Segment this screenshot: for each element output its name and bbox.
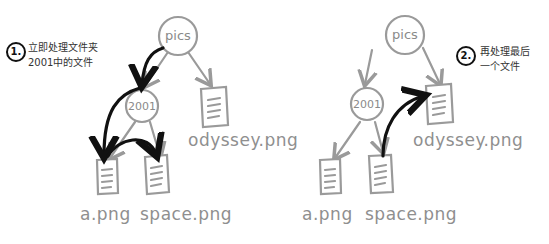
step-2-caption: 再处理最后 一个文件 (480, 44, 530, 74)
file-odyssey-icon (201, 87, 228, 127)
node-pics-label: pics (392, 27, 418, 42)
file-a-label: a.png (302, 204, 353, 224)
step-2-caption-line1: 再处理最后 (480, 44, 530, 59)
step-1-caption-line1: 立即处理文件夹 (28, 40, 98, 55)
step-2-caption-line2: 一个文件 (480, 59, 530, 74)
edge-pics-2001 (365, 50, 372, 84)
node-2001-label: 2001 (128, 100, 156, 113)
file-space-label: space.png (365, 204, 457, 224)
step-1-caption-line2: 2001中的文件 (28, 55, 98, 70)
file-space-label: space.png (140, 204, 232, 224)
node-pics: pics (159, 17, 197, 55)
file-odyssey-icon (426, 84, 453, 124)
step-1-badge: 1. (6, 42, 26, 62)
edge-pics-odyssey (188, 52, 210, 84)
step-2-badge: 2. (456, 46, 476, 66)
traverse-arrow-a-to-space (108, 140, 156, 156)
node-2001-label: 2001 (353, 98, 381, 111)
node-pics-label: pics (165, 28, 191, 43)
node-pics: pics (386, 16, 424, 54)
file-odyssey-label: odyssey.png (188, 130, 298, 150)
edge-2001-a (335, 122, 360, 158)
node-2001: 2001 (351, 88, 383, 120)
file-a-icon (97, 159, 118, 194)
file-space-icon (369, 155, 393, 193)
edge-pics-odyssey (423, 48, 440, 84)
step-1-caption: 立即处理文件夹 2001中的文件 (28, 40, 98, 70)
panel-1-tree: pics 2001 odyssey.png a.png space.png (80, 17, 298, 224)
node-2001: 2001 (126, 90, 158, 122)
file-a-label: a.png (80, 204, 131, 224)
file-space-icon (145, 155, 169, 194)
diagram-canvas: pics 2001 odyssey.png a.png space.png (0, 0, 549, 244)
file-a-icon (320, 159, 341, 194)
file-odyssey-label: odyssey.png (413, 130, 523, 150)
